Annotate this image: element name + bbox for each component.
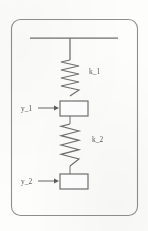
displacement-y2-group: y_2 <box>21 177 59 186</box>
spring-k2-coil <box>61 124 79 166</box>
displacement-y1-group: y_1 <box>21 104 59 113</box>
displacement-y1-label: y_1 <box>21 104 33 113</box>
spring-k2-group: k_2 <box>61 124 103 166</box>
mass-2-group <box>60 174 88 189</box>
spring-k1-coil <box>61 60 79 96</box>
mass-1-block <box>60 101 88 116</box>
displacement-y2-label: y_2 <box>21 177 33 186</box>
spring-k1-group: k_1 <box>61 60 100 96</box>
mass-1-group <box>60 101 88 116</box>
displacement-y1-arrowhead-icon <box>54 105 59 110</box>
figure-canvas: k_1 k_2 y_1 y_2 <box>0 0 148 231</box>
spring-k2-label: k_2 <box>92 135 103 144</box>
mass-2-block <box>60 174 88 189</box>
spring-k1-label: k_1 <box>89 67 100 76</box>
fixed-support-group <box>30 38 118 60</box>
spring-mass-system-diagram: k_1 k_2 y_1 y_2 <box>0 0 148 231</box>
displacement-y2-arrowhead-icon <box>54 178 59 183</box>
